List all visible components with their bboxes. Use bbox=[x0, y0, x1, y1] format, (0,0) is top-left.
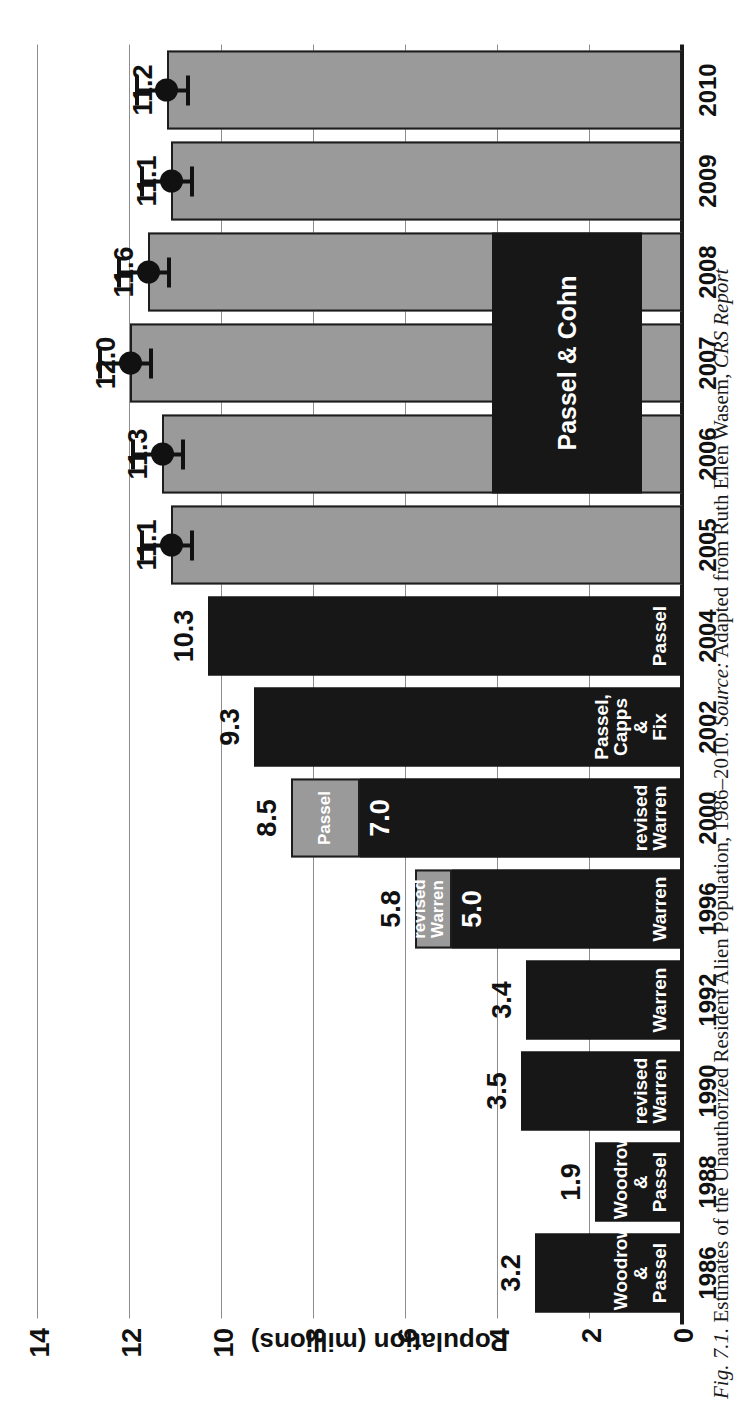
bar-value-label: 3.2 bbox=[496, 1213, 527, 1333]
bar-slot[interactable]: revisedWarrenPassel7.08.52000 bbox=[0, 778, 682, 856]
series-label-line: & Passel bbox=[630, 1151, 671, 1211]
error-bar-cap-high bbox=[140, 166, 144, 196]
estimate-point-marker bbox=[155, 78, 178, 101]
estimate-point-marker bbox=[151, 442, 174, 465]
bar-value-label: 3.4 bbox=[487, 940, 518, 1060]
estimate-point-marker bbox=[137, 260, 160, 283]
bar-segment-value-label: 5.0 bbox=[457, 849, 488, 969]
series-label-line: Passel, bbox=[591, 694, 612, 760]
y-axis-tick-label: 10 bbox=[209, 1328, 240, 1374]
segment-source-label: Woodrow& Passel bbox=[611, 1235, 670, 1309]
bar[interactable] bbox=[167, 50, 682, 128]
series-label-line: & Passel bbox=[630, 1242, 671, 1302]
bar[interactable]: WarrenrevisedWarren5.0 bbox=[415, 869, 682, 947]
segment-source-label: Passel,Capps &Fix bbox=[592, 689, 670, 763]
series-label-line: Warren bbox=[649, 967, 670, 1032]
bar-slot[interactable]: Woodrow& Passel3.21986 bbox=[0, 1233, 682, 1311]
estimate-point-marker bbox=[160, 533, 183, 556]
bar-chart: Population (millions) 14121086420 Woodro… bbox=[24, 29, 724, 1374]
y-axis-tick-label: 6 bbox=[393, 1328, 424, 1374]
series-label-line: Capps & bbox=[610, 697, 651, 755]
y-axis-tick-label: 8 bbox=[301, 1328, 332, 1374]
bar-value-label: 1.9 bbox=[556, 1122, 587, 1242]
bar-segment[interactable]: Passel,Capps &Fix bbox=[254, 687, 682, 765]
bar-slot[interactable]: revisedWarren3.51990 bbox=[0, 1051, 682, 1129]
caption-figure-number: Fig. 7.1. bbox=[709, 1328, 733, 1399]
bar-segment[interactable] bbox=[171, 141, 682, 219]
estimate-point-marker bbox=[160, 169, 183, 192]
bar[interactable]: Passel bbox=[208, 596, 682, 674]
series-label-line: revised bbox=[630, 784, 651, 851]
rotated-chart-container: Population (millions) 14121086420 Woodro… bbox=[24, 29, 724, 1374]
y-axis-tick-label: 0 bbox=[669, 1328, 700, 1374]
bar-segment[interactable] bbox=[171, 505, 682, 583]
error-bar-cap-high bbox=[131, 439, 135, 469]
series-label-line: Fix bbox=[649, 713, 670, 740]
bar-segment[interactable]: Woodrow& Passel bbox=[595, 1142, 682, 1220]
series-label-line: Woodrow bbox=[610, 1223, 631, 1309]
plot-area: Woodrow& Passel3.21986Woodrow& Passel1.9… bbox=[24, 44, 724, 1318]
bar-segment[interactable]: revisedWarren bbox=[360, 778, 682, 856]
bar[interactable] bbox=[171, 505, 682, 583]
series-label-line: revised bbox=[410, 879, 429, 939]
caption-title: Estimates of the Unauthorized Resident A… bbox=[709, 726, 733, 1327]
error-bar-cap-low bbox=[190, 166, 194, 196]
bar-segment[interactable]: Passel bbox=[208, 596, 682, 674]
y-axis-title: Population (millions) bbox=[251, 1325, 508, 1356]
y-axis-tick-label: 4 bbox=[485, 1328, 516, 1374]
error-bar-cap-low bbox=[149, 348, 153, 378]
series-label-line: Warren bbox=[649, 876, 670, 941]
bar-value-label: 8.5 bbox=[252, 758, 283, 878]
bar[interactable] bbox=[171, 141, 682, 219]
series-label-line: Passel bbox=[649, 605, 670, 665]
series-label-line: Warren bbox=[649, 1058, 670, 1123]
error-bar-cap-high bbox=[98, 348, 102, 378]
bar[interactable]: revisedWarrenPassel7.0 bbox=[291, 778, 682, 856]
caption-source-italic: CRS Report bbox=[709, 269, 733, 369]
error-bar-cap-low bbox=[181, 439, 185, 469]
chart-annotation-label: Passel & Cohn bbox=[492, 232, 642, 492]
series-label-line: Warren bbox=[649, 785, 670, 850]
error-bar-cap-high bbox=[135, 75, 139, 105]
bar-slot[interactable]: 11.12005 bbox=[0, 505, 682, 583]
bar-segment-value-label: 7.0 bbox=[365, 758, 396, 878]
bar-segment[interactable] bbox=[167, 50, 682, 128]
bar[interactable]: Warren bbox=[526, 960, 682, 1038]
bar[interactable]: revisedWarren bbox=[521, 1051, 682, 1129]
bar-slot[interactable]: 11.22010 bbox=[0, 50, 682, 128]
bar-slot[interactable]: Woodrow& Passel1.91988 bbox=[0, 1142, 682, 1220]
segment-source-label: Passel bbox=[650, 598, 670, 672]
bar-slot[interactable]: Passel,Capps &Fix9.32002 bbox=[0, 687, 682, 765]
bar-segment[interactable]: Woodrow& Passel bbox=[535, 1233, 682, 1311]
error-bar-cap-low bbox=[167, 257, 171, 287]
series-label-line: Warren bbox=[428, 880, 447, 938]
error-bar-cap-high bbox=[117, 257, 121, 287]
bar-segment[interactable]: Passel bbox=[291, 778, 360, 856]
segment-source-label: Warren bbox=[650, 962, 670, 1036]
bar-segment[interactable]: revisedWarren bbox=[415, 869, 452, 947]
segment-source-label: Warren bbox=[650, 871, 670, 945]
bar-slot[interactable]: WarrenrevisedWarren5.05.81996 bbox=[0, 869, 682, 947]
bar-segment[interactable]: Warren bbox=[526, 960, 682, 1038]
y-axis-tick-label: 2 bbox=[577, 1328, 608, 1374]
series-label-line: Woodrow bbox=[610, 1132, 631, 1218]
bar-slot[interactable]: Warren3.41992 bbox=[0, 960, 682, 1038]
bar[interactable]: Woodrow& Passel bbox=[535, 1233, 682, 1311]
segment-source-label: Passel bbox=[316, 780, 334, 854]
error-bar-cap-low bbox=[190, 530, 194, 560]
segment-source-label: revisedWarren bbox=[631, 780, 670, 854]
figure-caption: Fig. 7.1. Estimates of the Unauthorized … bbox=[702, 0, 742, 1403]
y-axis-tick-label: 12 bbox=[117, 1328, 148, 1374]
bar[interactable]: Woodrow& Passel bbox=[595, 1142, 682, 1220]
figure-page: Population (millions) 14121086420 Woodro… bbox=[0, 0, 748, 1403]
bar-value-label: 9.3 bbox=[215, 667, 246, 787]
bar-slot[interactable]: Passel10.32004 bbox=[0, 596, 682, 674]
bar-slot[interactable]: 11.12009 bbox=[0, 141, 682, 219]
caption-source-text: Adapted from Ruth Ellen Wasem, bbox=[709, 368, 733, 662]
bar-segment[interactable]: revisedWarren bbox=[521, 1051, 682, 1129]
bar[interactable]: Passel,Capps &Fix bbox=[254, 687, 682, 765]
segment-source-label: Woodrow& Passel bbox=[611, 1144, 670, 1218]
caption-source-label: Source: bbox=[709, 662, 733, 727]
estimate-point-marker bbox=[119, 351, 142, 374]
error-bar-cap-low bbox=[186, 75, 190, 105]
